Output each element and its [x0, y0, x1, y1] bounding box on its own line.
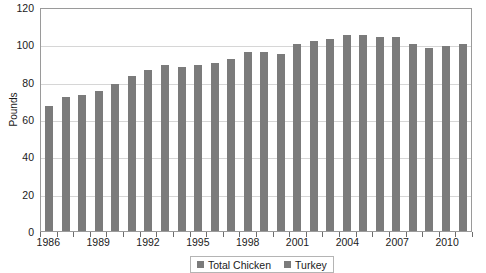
y-axis-tick-label: 100 [0, 40, 38, 50]
y-axis-tick-label: 0 [0, 227, 38, 237]
bar-slot [173, 9, 190, 231]
bar [442, 46, 450, 231]
bar-slot [140, 9, 157, 231]
x-axis-tick-label: 2007 [386, 236, 409, 248]
bar [277, 54, 285, 231]
bar-slot [206, 9, 223, 231]
bar-slot [355, 9, 372, 231]
bar-slot [289, 9, 306, 231]
bar-slot [58, 9, 75, 231]
bar [326, 39, 334, 231]
bar-slot [421, 9, 438, 231]
bar-slot [107, 9, 124, 231]
bar [95, 91, 103, 231]
bar [111, 84, 119, 231]
bar [211, 63, 219, 231]
bar-slot [388, 9, 405, 231]
bar [144, 70, 152, 231]
y-axis-tick-label: 20 [0, 190, 38, 200]
bar-slot [41, 9, 58, 231]
bar [62, 97, 70, 231]
legend-swatch-icon [284, 261, 291, 268]
x-axis-tick-labels: 198619891992199519982001200420072010 [40, 236, 472, 252]
bar-slot [239, 9, 256, 231]
bar-slot [190, 9, 207, 231]
chart-legend: Total ChickenTurkey [190, 256, 334, 273]
x-axis-tick-label: 1989 [86, 236, 109, 248]
bar [343, 35, 351, 231]
y-axis-tick-label: 40 [0, 152, 38, 162]
bar [459, 44, 467, 231]
bar-chart: Pounds 020406080100120 19861989199219951… [0, 0, 486, 273]
bar-slot [322, 9, 339, 231]
bar [178, 67, 186, 231]
x-axis-tick-label: 1986 [37, 236, 60, 248]
bar-slot [306, 9, 323, 231]
bar-slot [157, 9, 174, 231]
legend-label: Total Chicken [208, 259, 271, 271]
bar [310, 41, 318, 231]
bar-series-total-chicken [41, 9, 471, 231]
bar [409, 44, 417, 231]
bar-slot [223, 9, 240, 231]
bar [78, 95, 86, 231]
legend-item[interactable]: Turkey [284, 259, 327, 271]
legend-item[interactable]: Total Chicken [197, 259, 271, 271]
bar [227, 59, 235, 231]
x-axis-tick-label: 2001 [286, 236, 309, 248]
bar-slot [438, 9, 455, 231]
bar-slot [256, 9, 273, 231]
bar [244, 52, 252, 231]
bar [194, 65, 202, 231]
y-axis-tick-label: 120 [0, 3, 38, 13]
x-axis-tick-label: 1992 [136, 236, 159, 248]
bar [161, 65, 169, 231]
bar [392, 37, 400, 231]
bar [128, 76, 136, 231]
bar [359, 35, 367, 231]
bar-slot [372, 9, 389, 231]
bar [293, 44, 301, 231]
x-axis-tick-label: 2004 [336, 236, 359, 248]
bar-slot [74, 9, 91, 231]
y-axis-tick-label: 80 [0, 78, 38, 88]
x-axis-tick-label: 2010 [435, 236, 458, 248]
bar-slot [91, 9, 108, 231]
plot-area [40, 8, 472, 232]
y-axis-tick-label: 60 [0, 115, 38, 125]
bar-slot [454, 9, 471, 231]
bar-slot [405, 9, 422, 231]
bar [376, 37, 384, 231]
x-axis-tick [472, 232, 473, 237]
bar-slot [339, 9, 356, 231]
bar-slot [272, 9, 289, 231]
bar [425, 48, 433, 231]
bar-slot [124, 9, 141, 231]
x-axis-tick-label: 1998 [236, 236, 259, 248]
legend-label: Turkey [295, 259, 327, 271]
bar [45, 106, 53, 231]
y-axis-tick-labels: 020406080100120 [0, 0, 38, 273]
legend-swatch-icon [197, 261, 204, 268]
bar [260, 52, 268, 231]
x-axis-tick-label: 1995 [186, 236, 209, 248]
